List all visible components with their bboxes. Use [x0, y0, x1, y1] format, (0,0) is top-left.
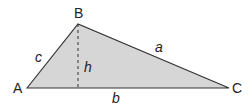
side-label-b: b [112, 90, 120, 106]
vertex-label-a: A [13, 80, 23, 96]
side-label-c: c [35, 49, 42, 65]
vertex-label-c: C [232, 80, 242, 96]
side-label-a: a [155, 39, 163, 55]
vertex-label-b: B [74, 5, 83, 21]
triangle-diagram: B A C a b c h [0, 0, 249, 107]
height-label-h: h [84, 59, 92, 75]
triangle-abc [27, 24, 229, 88]
